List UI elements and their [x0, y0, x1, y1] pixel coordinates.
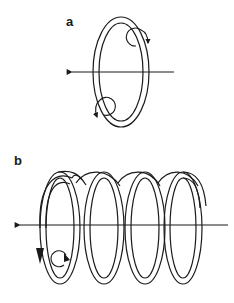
panel-b-helix	[40, 171, 206, 284]
panel-a-field-arrow-bottom	[96, 100, 100, 117]
helix-turn-3-inner	[131, 178, 159, 278]
helix-turn-1-lead-inner	[46, 183, 70, 228]
helix-turn-2-inner	[90, 178, 118, 278]
helix-turn-4-inner	[170, 178, 196, 278]
panel-b-field-arrow	[64, 253, 70, 262]
panel-b-field-loop	[51, 251, 66, 267]
diagram-canvas	[0, 0, 234, 303]
helix-tail-inner	[183, 178, 200, 208]
